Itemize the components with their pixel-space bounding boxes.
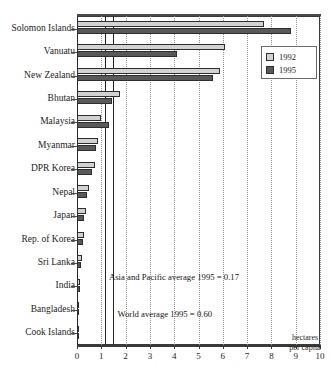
- y-axis-tick: [71, 193, 77, 194]
- bar-1992: [77, 302, 79, 308]
- bar-1995: [77, 122, 109, 128]
- x-axis-tick-5: [199, 345, 200, 349]
- y-axis-label: Malaysia: [40, 116, 75, 126]
- y-axis-tick: [71, 146, 77, 147]
- legend-item-1995: 1995: [266, 63, 316, 76]
- x-axis-title: hectares per capita: [283, 333, 327, 352]
- y-axis-label: Rep. of Korea: [21, 234, 75, 244]
- bar-1992: [77, 44, 225, 50]
- y-axis-tick: [71, 122, 77, 123]
- x-axis-tick-label-7: 7: [238, 351, 256, 361]
- y-axis-tick: [71, 263, 77, 264]
- x-axis-tick-label-10: 10: [311, 351, 329, 361]
- x-axis-tick-8: [271, 345, 272, 349]
- bar-1992: [77, 255, 82, 261]
- y-axis-label: New Zealand: [24, 70, 75, 80]
- y-axis-label: Bangladesh: [31, 304, 75, 314]
- bar-1995: [77, 169, 92, 175]
- bar-group: [77, 208, 320, 227]
- x-axis-tick-6: [223, 345, 224, 349]
- bar-group: [77, 185, 320, 204]
- bar-1995: [77, 51, 177, 57]
- bar-chart: Solomon IslandsVanuatuNew ZealandBhutanM…: [0, 0, 331, 371]
- x-axis-tick-7: [247, 345, 248, 349]
- y-axis-tick: [71, 310, 77, 311]
- bar-group: [77, 21, 320, 40]
- x-axis-tick-label-6: 6: [214, 351, 232, 361]
- cropped-title-remnant: [86, 0, 206, 12]
- bar-1995: [77, 192, 87, 198]
- bar-group: [77, 91, 320, 110]
- bar-1992: [77, 232, 84, 238]
- bar-1992: [77, 185, 89, 191]
- bar-1992: [77, 162, 95, 168]
- bar-1995: [77, 286, 80, 292]
- x-axis-tick-label-4: 4: [165, 351, 183, 361]
- y-axis-label: Myanmar: [38, 140, 75, 150]
- legend-label-1992: 1992: [279, 52, 296, 62]
- y-axis-tick: [71, 240, 77, 241]
- x-axis-tick-1: [101, 345, 102, 349]
- y-axis-label: Vanuatu: [44, 46, 75, 56]
- bar-1992: [77, 115, 101, 121]
- bar-group: [77, 115, 320, 134]
- bar-1992: [77, 279, 80, 285]
- y-axis-label: Solomon Islands: [11, 23, 75, 33]
- x-axis-title-line1: hectares: [283, 333, 327, 343]
- bar-group: [77, 232, 320, 251]
- bar-1995: [77, 262, 81, 268]
- bar-1992: [77, 326, 79, 332]
- y-axis-tick: [71, 216, 77, 217]
- x-axis-title-line2: per capita: [283, 343, 327, 353]
- bar-1995: [77, 98, 112, 104]
- bar-1995: [77, 239, 83, 245]
- annotation-asia-pacific-average: Asia and Pacific average 1995 = 0.17: [109, 272, 239, 282]
- x-axis-tick-label-2: 2: [117, 351, 135, 361]
- legend-label-1995: 1995: [279, 65, 296, 75]
- x-axis-tick-label-1: 1: [92, 351, 110, 361]
- x-axis-tick-0: [77, 345, 78, 349]
- annotation-world-average: World average 1995 = 0.60: [117, 309, 212, 319]
- y-axis-tick: [71, 333, 77, 334]
- x-axis-tick-label-0: 0: [68, 351, 86, 361]
- y-axis-tick: [71, 286, 77, 287]
- bar-1995: [77, 333, 79, 339]
- x-axis-tick-3: [150, 345, 151, 349]
- y-axis-label: Nepal: [52, 187, 75, 197]
- x-axis-tick-label-8: 8: [262, 351, 280, 361]
- bar-1992: [77, 91, 120, 97]
- bar-1992: [77, 21, 264, 27]
- legend-swatch-1995: [266, 66, 274, 74]
- x-axis-tick-label-3: 3: [141, 351, 159, 361]
- bar-group: [77, 138, 320, 157]
- y-axis-label: India: [55, 280, 75, 290]
- y-axis-label: Cook Islands: [25, 327, 75, 337]
- y-axis-label: DPR Korea: [31, 163, 75, 173]
- bar-1995: [77, 145, 96, 151]
- y-axis-label: Sri Lanka: [38, 257, 75, 267]
- bar-group: [77, 162, 320, 181]
- legend-swatch-1992: [266, 53, 274, 61]
- y-axis-label: Japan: [53, 210, 75, 220]
- legend-item-1992: 1992: [266, 50, 316, 63]
- x-axis-tick-2: [126, 345, 127, 349]
- x-axis-tick-label-5: 5: [190, 351, 208, 361]
- bar-1995: [77, 75, 213, 81]
- y-axis-tick: [71, 169, 77, 170]
- bar-1992: [77, 138, 98, 144]
- bar-1992: [77, 208, 86, 214]
- x-axis-tick-label-9: 9: [287, 351, 305, 361]
- bar-1995: [77, 309, 79, 315]
- bar-1992: [77, 68, 220, 74]
- y-axis-label: Bhutan: [48, 93, 75, 103]
- y-axis-tick: [71, 76, 77, 77]
- gridline-10: [320, 16, 321, 345]
- y-axis-tick: [71, 52, 77, 53]
- y-axis-tick: [71, 99, 77, 100]
- x-axis-tick-4: [174, 345, 175, 349]
- legend: 1992 1995: [261, 46, 317, 79]
- bar-1995: [77, 215, 84, 221]
- y-axis-tick: [71, 29, 77, 30]
- bar-1995: [77, 28, 291, 34]
